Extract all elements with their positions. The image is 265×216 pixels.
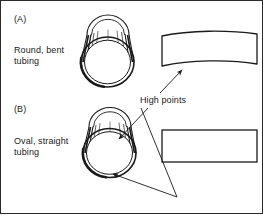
leader-arrow-to-bent-profile	[160, 70, 182, 93]
tube-profile-straight	[162, 130, 257, 162]
tube-end-view-round	[81, 15, 134, 88]
tube-a-near-rim-inner	[85, 40, 131, 84]
bent-tube-outline	[162, 31, 257, 66]
straight-tube-outline	[162, 130, 257, 162]
leader-arrow-to-tube-b-lower	[113, 174, 177, 197]
panel-caption-a-line1: Round, bent	[14, 45, 64, 55]
panel-caption-b-line2: tubing	[14, 147, 39, 157]
tube-profile-bent	[162, 31, 257, 66]
tube-b-near-rim-inner	[87, 132, 133, 175]
figure-artwork	[0, 0, 265, 216]
panel-caption-a-line2: tubing	[14, 56, 39, 66]
annotation-high-points: High points	[140, 95, 186, 106]
panel-label-b: (B)	[14, 104, 26, 115]
panel-caption-b-line1: Oval, straight	[14, 136, 68, 146]
tube-end-view-oval	[83, 108, 136, 178]
figure-root: (A) Round, benttubing (B) Oval, straight…	[0, 0, 265, 216]
panel-label-a: (A)	[14, 14, 26, 25]
panel-caption-b: Oval, straighttubing	[14, 136, 68, 158]
panel-caption-a: Round, benttubing	[14, 45, 64, 67]
